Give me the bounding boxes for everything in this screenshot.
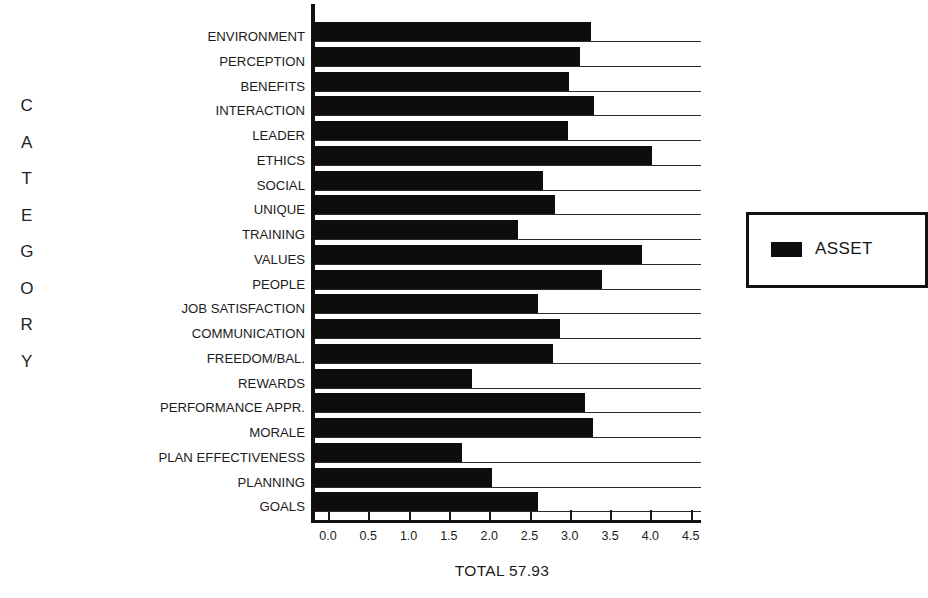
- x-axis-tick: [449, 510, 451, 521]
- category-label: PLANNING: [60, 476, 305, 489]
- category-label: ETHICS: [60, 154, 305, 167]
- bar: [313, 369, 472, 388]
- category-label: VALUES: [60, 253, 305, 266]
- category-label: GOALS: [60, 500, 305, 513]
- category-label: ENVIRONMENT: [60, 30, 305, 43]
- gridline: [315, 511, 701, 512]
- bar: [313, 171, 543, 190]
- bar: [313, 393, 585, 412]
- bar: [313, 270, 602, 289]
- legend-swatch-icon: [771, 242, 802, 257]
- x-axis-tick-label: 0.5: [348, 529, 388, 543]
- category-label: MORALE: [60, 426, 305, 439]
- x-axis-tick: [409, 510, 411, 521]
- bar: [313, 195, 555, 214]
- bar: [313, 96, 594, 115]
- category-label: PERFORMANCE APPR.: [60, 401, 305, 414]
- gridline: [315, 289, 701, 290]
- bar: [313, 245, 642, 264]
- x-axis-tick-label: 2.0: [469, 529, 509, 543]
- bar: [313, 468, 492, 487]
- gridline: [315, 165, 701, 166]
- gridline: [315, 313, 701, 314]
- gridline: [315, 66, 701, 67]
- bar: [313, 146, 652, 165]
- y-axis-title-letter: E: [10, 198, 44, 235]
- gridline: [315, 41, 701, 42]
- y-axis-title: CATEGORY: [10, 88, 44, 380]
- category-label: BENEFITS: [60, 80, 305, 93]
- bar: [313, 418, 593, 437]
- total-caption: TOTAL 57.93: [311, 562, 693, 580]
- x-axis-tick: [610, 510, 612, 521]
- bar: [313, 294, 538, 313]
- gridline: [315, 140, 701, 141]
- x-axis-tick-label: 4.5: [671, 529, 711, 543]
- gridline: [315, 91, 701, 92]
- x-axis-tick-label: 4.0: [630, 529, 670, 543]
- category-label: PEOPLE: [60, 278, 305, 291]
- x-axis-tick: [570, 510, 572, 521]
- category-tick-labels: ENVIRONMENTPERCEPTIONBENEFITSINTERACTION…: [60, 22, 305, 522]
- gridline: [315, 363, 701, 364]
- bar: [313, 443, 462, 462]
- gridline: [315, 214, 701, 215]
- y-axis-title-letter: C: [10, 88, 44, 125]
- gridline: [315, 412, 701, 413]
- category-label: PERCEPTION: [60, 55, 305, 68]
- category-label: INTERACTION: [60, 104, 305, 117]
- y-axis-title-letter: O: [10, 271, 44, 308]
- legend-entry-asset: ASSET: [771, 239, 873, 259]
- bar: [313, 121, 568, 140]
- x-axis-tick-label: 0.0: [308, 529, 348, 543]
- bar: [313, 72, 569, 91]
- x-axis-tick: [368, 510, 370, 521]
- category-label: REWARDS: [60, 377, 305, 390]
- x-axis-tick-label: 1.0: [389, 529, 429, 543]
- gridline: [315, 388, 701, 389]
- x-axis-tick: [530, 510, 532, 521]
- category-label: UNIQUE: [60, 203, 305, 216]
- gridline: [315, 115, 701, 116]
- category-label: TRAINING: [60, 228, 305, 241]
- gridline: [315, 239, 701, 240]
- gridline: [315, 190, 701, 191]
- x-axis-tick: [691, 510, 693, 521]
- x-axis-tick-label: 3.0: [550, 529, 590, 543]
- y-axis-title-letter: G: [10, 234, 44, 271]
- bar: [313, 319, 560, 338]
- x-axis-tick: [650, 510, 652, 521]
- category-label: PLAN EFFECTIVENESS: [60, 451, 305, 464]
- gridline: [315, 462, 701, 463]
- y-axis-title-letter: A: [10, 125, 44, 162]
- category-label: JOB SATISFACTION: [60, 302, 305, 315]
- bar: [313, 220, 518, 239]
- x-axis-tick-label: 3.5: [590, 529, 630, 543]
- gridline: [315, 437, 701, 438]
- legend-box: ASSET: [746, 212, 928, 288]
- bar: [313, 22, 591, 41]
- legend-entry-label: ASSET: [815, 239, 873, 259]
- gridline: [315, 338, 701, 339]
- y-axis-title-letter: R: [10, 307, 44, 344]
- category-label: SOCIAL: [60, 179, 305, 192]
- bar: [313, 47, 580, 66]
- x-axis-tick: [489, 510, 491, 521]
- category-label: COMMUNICATION: [60, 327, 305, 340]
- category-label: FREEDOM/BAL.: [60, 352, 305, 365]
- gridline: [315, 487, 701, 488]
- bar: [313, 492, 538, 511]
- plot-area: [311, 4, 711, 524]
- category-label: LEADER: [60, 129, 305, 142]
- x-axis-tick-label: 2.5: [510, 529, 550, 543]
- x-axis-tick-label: 1.5: [429, 529, 469, 543]
- x-axis-tick: [328, 510, 330, 521]
- bar: [313, 344, 553, 363]
- gridline: [315, 264, 701, 265]
- x-axis-tick-labels: 0.00.51.01.52.02.53.03.54.04.5: [311, 529, 711, 549]
- y-axis-title-letter: T: [10, 161, 44, 198]
- y-axis-title-letter: Y: [10, 344, 44, 381]
